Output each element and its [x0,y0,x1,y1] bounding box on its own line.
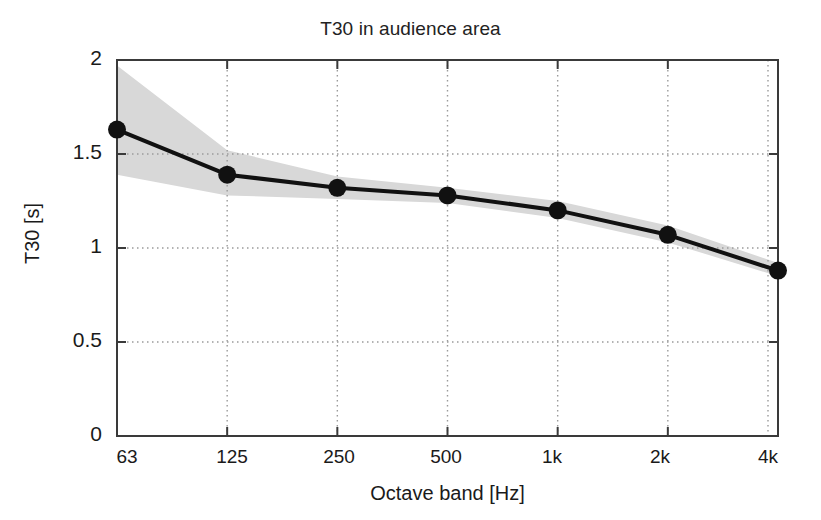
data-point-marker [549,201,567,219]
xtick-label-2k: 2k [620,446,700,468]
xaxis-title: Octave band [Hz] [117,482,778,505]
xtick-label-63: 63 [87,446,167,468]
xtick-label-1k: 1k [512,446,592,468]
yaxis-title: T30 [s] [21,164,44,304]
data-point-marker [659,226,677,244]
xtick-label-250: 250 [299,446,379,468]
ytick-label-2: 2 [60,46,102,70]
data-point-marker [328,179,346,197]
ytick-label-1: 1 [60,234,102,258]
data-point-marker [439,186,457,204]
data-point-marker [769,262,787,280]
xtick-label-500: 500 [406,446,486,468]
chart-figure: T30 in audience area 2 1.5 1 0.5 0 63 12… [0,0,821,520]
xtick-label-4k: 4k [728,446,808,468]
plot-canvas [0,0,821,520]
ytick-label-0: 0 [60,422,102,446]
xtick-label-125: 125 [192,446,272,468]
data-point-marker [108,121,126,139]
ytick-label-0.5: 0.5 [46,328,102,352]
data-point-marker [218,166,236,184]
ytick-label-1.5: 1.5 [46,140,102,164]
